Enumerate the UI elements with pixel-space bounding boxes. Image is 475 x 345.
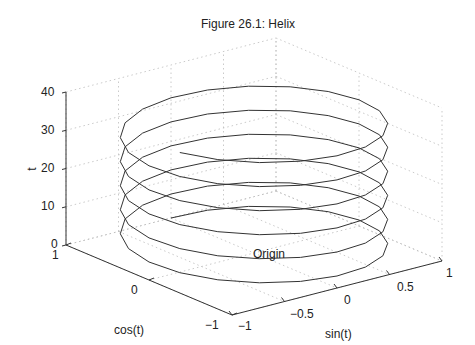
z-tick-30: 30	[41, 123, 55, 137]
x-tick-1: 1	[446, 266, 453, 280]
x-tick-neg1: −1	[238, 319, 252, 333]
y-tick-0: 0	[131, 283, 138, 297]
x-axis-label: sin(t)	[325, 327, 352, 341]
x-tick-0: 0	[344, 293, 351, 307]
z-axis-label: t	[25, 167, 39, 171]
y-tick-neg1: −1	[205, 318, 219, 332]
helix-3d-plot: 40 30 20 10 0 t 1 0 −1 cos(t) −1 −0.5 0 …	[0, 0, 475, 345]
y-tick-1: 1	[52, 248, 59, 262]
z-tick-10: 10	[41, 199, 55, 213]
z-tick-40: 40	[41, 85, 55, 99]
x-tick-neg0.5: −0.5	[290, 307, 314, 321]
x-tick-0.5: 0.5	[397, 280, 414, 294]
y-axis-label: cos(t)	[114, 323, 144, 337]
z-tick-20: 20	[41, 161, 55, 175]
origin-annotation: Origin	[253, 247, 285, 261]
